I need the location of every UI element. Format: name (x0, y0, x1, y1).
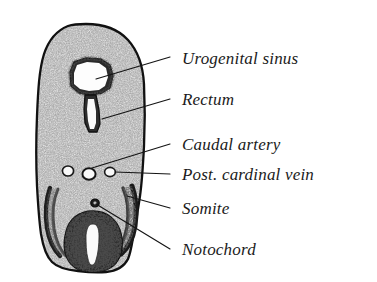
label-post-cardinal-vein: Post. cardinal vein (181, 165, 314, 184)
label-somite: Somite (182, 199, 230, 218)
anatomical-cross-section-figure: Urogenital sinus Rectum Caudal artery Po… (0, 0, 377, 282)
urogenital-sinus-structure (70, 58, 113, 95)
caudal-artery-structure (82, 168, 95, 180)
label-group: Urogenital sinus Rectum Caudal artery Po… (181, 49, 314, 259)
figure-page: Urogenital sinus Rectum Caudal artery Po… (0, 0, 377, 282)
neural-tube-structure (64, 211, 122, 272)
label-urogenital-sinus: Urogenital sinus (182, 49, 299, 68)
post-cardinal-vein-structure (105, 167, 116, 176)
accessory-vessel-left (62, 166, 73, 176)
label-notochord: Notochord (181, 240, 256, 259)
rectum-structure (84, 95, 100, 132)
label-caudal-artery: Caudal artery (182, 135, 281, 154)
label-rectum: Rectum (181, 90, 234, 109)
